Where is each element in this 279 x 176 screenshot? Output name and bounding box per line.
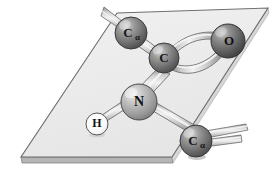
molecule-canvas: H C α C O N C [0, 0, 279, 176]
atom-carbon-carbonyl[interactable]: C [149, 43, 179, 73]
atom-hydrogen[interactable]: H [86, 113, 108, 135]
molecular-diagram-figure: H C α C O N C [0, 0, 279, 176]
atom-nitrogen-sphere[interactable] [121, 84, 157, 120]
atom-carbon-carbonyl-sphere[interactable] [149, 43, 179, 73]
atom-oxygen-sphere[interactable] [211, 24, 245, 58]
atom-c-alpha-top-sphere[interactable] [115, 17, 147, 49]
atom-oxygen[interactable]: O [211, 24, 245, 58]
plane-thickness-edge [21, 157, 173, 163]
atom-c-alpha-top[interactable]: C α [115, 17, 147, 49]
atom-hydrogen-sphere[interactable] [86, 113, 108, 135]
atom-c-alpha-bottom[interactable]: C α [180, 125, 212, 157]
atom-c-alpha-bottom-sphere[interactable] [180, 125, 212, 157]
atom-nitrogen[interactable]: N [121, 84, 157, 120]
